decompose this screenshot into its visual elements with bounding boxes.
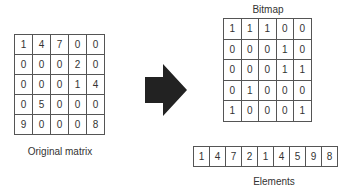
matrix-row: 1 4 7 0 0 <box>15 35 105 55</box>
bitmap-cell: 1 <box>294 60 312 81</box>
matrix-cell: 0 <box>33 55 51 75</box>
bitmap-row: 0 1 0 0 0 <box>224 80 312 101</box>
bitmap-cell: 0 <box>276 101 294 122</box>
bitmap-cell: 1 <box>224 19 242 40</box>
element-cell: 2 <box>242 147 258 167</box>
elements-label: Elements <box>193 176 355 187</box>
bitmap-cell: 0 <box>241 39 259 60</box>
matrix-cell: 0 <box>51 115 69 135</box>
element-cell: 9 <box>306 147 322 167</box>
element-cell: 4 <box>274 147 290 167</box>
bitmap-cell: 1 <box>259 19 277 40</box>
matrix-cell: 1 <box>69 75 87 95</box>
bitmap-row: 1 1 1 0 0 <box>224 19 312 40</box>
matrix-cell: 8 <box>87 115 105 135</box>
matrix-cell: 7 <box>51 35 69 55</box>
bitmap-cell: 1 <box>276 60 294 81</box>
bitmap-cell: 1 <box>294 101 312 122</box>
matrix-cell: 0 <box>69 115 87 135</box>
bitmap-cell: 0 <box>259 60 277 81</box>
bitmap-cell: 0 <box>259 80 277 101</box>
bitmap-cell: 1 <box>224 101 242 122</box>
matrix-cell: 0 <box>51 95 69 115</box>
element-cell: 5 <box>290 147 306 167</box>
matrix-row: 0 5 0 0 0 <box>15 95 105 115</box>
bitmap-row: 1 0 0 0 1 <box>224 101 312 122</box>
bitmap-cell: 0 <box>241 60 259 81</box>
bitmap-label: Bitmap <box>223 4 313 15</box>
matrix-cell: 0 <box>33 75 51 95</box>
bitmap-cell: 0 <box>259 101 277 122</box>
matrix-cell: 9 <box>15 115 33 135</box>
bitmap-grid: 1 1 1 0 0 0 0 0 1 0 0 0 0 1 1 0 1 0 0 0 <box>223 18 312 122</box>
bitmap-row: 0 0 0 1 0 <box>224 39 312 60</box>
element-cell: 1 <box>194 147 210 167</box>
matrix-cell: 0 <box>87 95 105 115</box>
matrix-cell: 5 <box>33 95 51 115</box>
matrix-cell: 1 <box>15 35 33 55</box>
element-cell: 7 <box>226 147 242 167</box>
elements-array: 1 4 7 2 1 4 5 9 8 <box>193 146 338 167</box>
right-arrow-icon <box>145 64 189 116</box>
bitmap-cell: 0 <box>224 39 242 60</box>
elements-row: 1 4 7 2 1 4 5 9 8 <box>194 147 338 167</box>
bitmap-cell: 0 <box>276 19 294 40</box>
element-cell: 8 <box>322 147 338 167</box>
bitmap-cell: 0 <box>294 39 312 60</box>
bitmap-cell: 0 <box>224 60 242 81</box>
matrix-cell: 0 <box>15 75 33 95</box>
bitmap-cell: 0 <box>224 80 242 101</box>
matrix-cell: 0 <box>69 95 87 115</box>
bitmap-cell: 0 <box>294 80 312 101</box>
matrix-cell: 0 <box>87 55 105 75</box>
matrix-cell: 0 <box>87 35 105 55</box>
original-matrix-label: Original matrix <box>14 146 106 157</box>
bitmap-cell: 0 <box>294 19 312 40</box>
bitmap-cell: 0 <box>276 80 294 101</box>
bitmap-cell: 0 <box>241 101 259 122</box>
bitmap-cell: 1 <box>276 39 294 60</box>
matrix-row: 0 0 0 2 0 <box>15 55 105 75</box>
element-cell: 4 <box>210 147 226 167</box>
element-cell: 1 <box>258 147 274 167</box>
bitmap-cell: 0 <box>259 39 277 60</box>
matrix-row: 0 0 0 1 4 <box>15 75 105 95</box>
matrix-cell: 0 <box>51 55 69 75</box>
matrix-cell: 0 <box>33 115 51 135</box>
matrix-cell: 0 <box>15 95 33 115</box>
matrix-cell: 2 <box>69 55 87 75</box>
bitmap-row: 0 0 0 1 1 <box>224 60 312 81</box>
matrix-cell: 0 <box>15 55 33 75</box>
original-matrix-grid: 1 4 7 0 0 0 0 0 2 0 0 0 0 1 4 0 5 0 0 0 <box>14 34 105 135</box>
matrix-cell: 4 <box>33 35 51 55</box>
bitmap-cell: 1 <box>241 19 259 40</box>
matrix-cell: 0 <box>69 35 87 55</box>
matrix-cell: 0 <box>51 75 69 95</box>
bitmap-cell: 1 <box>241 80 259 101</box>
matrix-row: 9 0 0 0 8 <box>15 115 105 135</box>
matrix-cell: 4 <box>87 75 105 95</box>
